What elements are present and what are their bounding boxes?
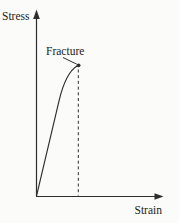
- fracture-point-marker: [77, 63, 81, 67]
- y-axis-arrowhead-icon: [33, 10, 40, 20]
- fracture-label: Fracture: [46, 45, 84, 57]
- y-axis-label: Stress: [2, 10, 30, 22]
- x-axis-label: Strain: [135, 204, 163, 216]
- stress-strain-figure: Stress Fracture Strain: [0, 0, 179, 223]
- figure-canvas: Stress Fracture Strain: [0, 0, 179, 223]
- fracture-leader-line: [63, 58, 77, 65]
- x-axis-arrowhead-icon: [155, 193, 164, 200]
- stress-strain-curve: [37, 66, 78, 196]
